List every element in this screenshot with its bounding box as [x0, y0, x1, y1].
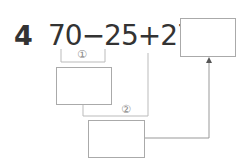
step2-marker: ② [121, 104, 131, 115]
step1-box[interactable] [56, 67, 112, 105]
answer-box[interactable] [180, 18, 236, 57]
problem-number: 4 [14, 22, 33, 49]
arrow-up-icon [206, 57, 212, 63]
step2-box[interactable] [88, 120, 145, 158]
step1-marker: ① [77, 49, 87, 60]
